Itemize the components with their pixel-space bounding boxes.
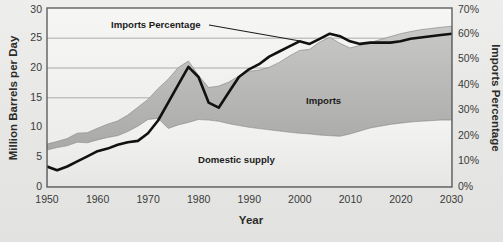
right-tick-60: 60%	[458, 27, 479, 39]
imports-annotation: Imports	[306, 95, 341, 106]
left-tick-15: 15	[30, 91, 42, 103]
bottom-tick-1990: 1990	[238, 193, 262, 205]
right-axis-title: Imports Percentage	[490, 44, 502, 151]
left-tick-0: 0	[36, 180, 42, 192]
right-tick-0: 0%	[458, 180, 473, 192]
bottom-tick-2030: 2030	[440, 193, 464, 205]
bottom-axis-title: Year	[239, 214, 264, 226]
right-tick-70: 70%	[458, 3, 479, 15]
imports-percentage-annotation: Imports Percentage	[111, 19, 201, 30]
bottom-tick-2020: 2020	[389, 193, 413, 205]
left-tick-20: 20	[30, 61, 42, 73]
bottom-tick-2000: 2000	[288, 193, 312, 205]
right-axis-ticks: 0% 10% 20% 30% 40% 50% 60% 70%	[458, 3, 479, 192]
right-tick-30: 30%	[458, 103, 479, 115]
bottom-tick-2010: 2010	[339, 193, 363, 205]
right-tick-50: 50%	[458, 52, 479, 64]
right-tick-10: 10%	[458, 154, 479, 166]
left-axis-ticks: 0 5 10 15 20 25 30	[30, 3, 42, 192]
bottom-tick-1960: 1960	[86, 193, 110, 205]
oil-supply-chart: Imports Percentage Imports Domestic supp…	[0, 0, 503, 242]
left-axis-title: Million Barrels per Day	[7, 35, 19, 160]
bottom-tick-1980: 1980	[187, 193, 211, 205]
bottom-axis-ticks: 1950 1960 1970 1980 1990 2000 2010 2020 …	[35, 193, 463, 205]
bottom-tick-1950: 1950	[35, 193, 59, 205]
right-tick-40: 40%	[458, 78, 479, 90]
left-tick-25: 25	[30, 31, 42, 43]
left-tick-10: 10	[30, 120, 42, 132]
domestic-supply-annotation: Domestic supply	[198, 154, 275, 165]
left-tick-5: 5	[36, 150, 42, 162]
right-tick-20: 20%	[458, 129, 479, 141]
footer-caption	[0, 233, 503, 242]
bottom-tick-1970: 1970	[136, 193, 160, 205]
left-tick-30: 30	[30, 3, 42, 15]
chart-figure: Imports Percentage Imports Domestic supp…	[0, 0, 503, 242]
